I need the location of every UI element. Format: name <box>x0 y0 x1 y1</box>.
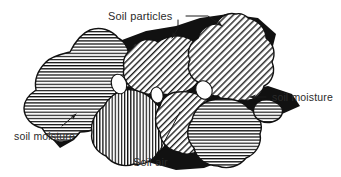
soil-diagram-canvas: Soil particles soil moisture soil moistu… <box>0 0 341 177</box>
soil-structure-figure: Soil particles soil moisture soil moistu… <box>0 0 341 177</box>
label-soil-moisture-right: soil moisture <box>272 91 333 103</box>
label-soil-particles: Soil particles <box>108 10 173 22</box>
label-soil-air: Soil air <box>133 156 168 168</box>
label-soil-moisture-left: soil moisture <box>14 130 75 142</box>
particle-bottom-right <box>188 98 262 167</box>
